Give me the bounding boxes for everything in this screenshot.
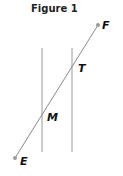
label-m: M	[47, 111, 58, 124]
transversal-line-ef	[15, 25, 98, 158]
label-f: F	[102, 19, 110, 32]
point-f	[96, 23, 100, 27]
label-e: E	[20, 155, 28, 168]
point-e	[13, 156, 17, 160]
label-t: T	[78, 62, 86, 75]
